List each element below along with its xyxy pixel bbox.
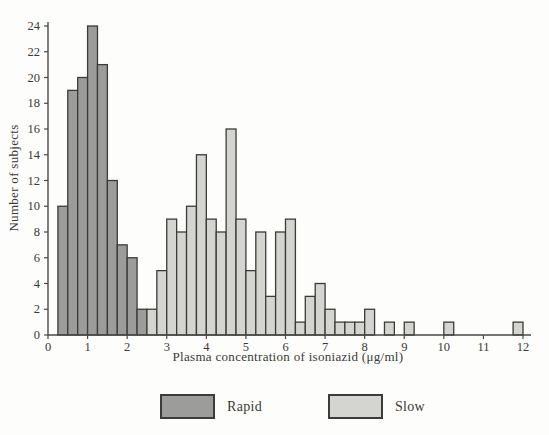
y-tick-label: 18 xyxy=(28,96,41,110)
bar-slow-5.25 xyxy=(256,232,266,335)
y-tick-label: 2 xyxy=(34,302,40,316)
legend-label-rapid: Rapid xyxy=(227,399,262,415)
legend: Rapid Slow xyxy=(0,392,549,428)
y-tick-label: 0 xyxy=(34,328,40,342)
y-tick-label: 10 xyxy=(28,199,41,213)
bar-rapid-1.5 xyxy=(107,181,117,336)
bar-rapid-2 xyxy=(127,258,137,335)
bar-slow-6.75 xyxy=(315,284,325,336)
legend-swatch-rapid xyxy=(160,394,215,419)
bar-slow-7 xyxy=(325,309,335,335)
bar-slow-11.75 xyxy=(513,322,523,335)
bar-rapid-0.5 xyxy=(68,90,78,335)
y-tick-label: 16 xyxy=(28,122,41,136)
bar-slow-7.5 xyxy=(345,322,355,335)
bar-rapid-1.25 xyxy=(97,65,107,335)
bar-slow-8.5 xyxy=(384,322,394,335)
bar-slow-2.5 xyxy=(147,309,157,335)
x-axis-title: Plasma concentration of isoniazid (μg/ml… xyxy=(48,349,528,365)
bar-slow-5.75 xyxy=(276,232,286,335)
isoniazid-histogram-figure: 0123456789101112024681012141618202224 Nu… xyxy=(0,0,549,435)
bar-slow-4.25 xyxy=(216,232,226,335)
y-tick-label: 14 xyxy=(28,148,41,162)
bar-slow-9 xyxy=(404,322,414,335)
bar-slow-7.25 xyxy=(335,322,345,335)
y-tick-label: 20 xyxy=(28,71,41,85)
legend-label-slow: Slow xyxy=(395,399,425,415)
y-tick-label: 24 xyxy=(28,19,41,33)
bar-slow-6.25 xyxy=(295,322,305,335)
bar-slow-3.5 xyxy=(187,206,197,335)
y-axis-title-text: Number of subjects xyxy=(6,124,22,231)
y-tick-label: 6 xyxy=(34,251,40,265)
bar-slow-4.5 xyxy=(226,129,236,335)
bar-rapid-2.25 xyxy=(137,309,147,335)
bar-slow-6 xyxy=(286,219,296,335)
bar-slow-4 xyxy=(206,219,216,335)
bar-rapid-0.75 xyxy=(78,78,88,336)
bar-slow-3.75 xyxy=(196,155,206,335)
bar-slow-4.75 xyxy=(236,219,246,335)
bar-rapid-1 xyxy=(88,26,98,335)
bar-slow-5.5 xyxy=(266,296,276,335)
legend-item-rapid: Rapid xyxy=(160,394,262,419)
bar-slow-5 xyxy=(246,271,256,335)
bar-slow-6.5 xyxy=(305,296,315,335)
y-tick-label: 12 xyxy=(28,174,41,188)
bar-slow-8 xyxy=(365,309,375,335)
bar-slow-2.75 xyxy=(157,271,167,335)
y-tick-label: 4 xyxy=(34,277,41,291)
bar-slow-3.25 xyxy=(177,232,187,335)
bar-slow-3 xyxy=(167,219,177,335)
bar-slow-7.75 xyxy=(355,322,365,335)
legend-swatch-slow xyxy=(328,394,383,419)
histogram-svg: 0123456789101112024681012141618202224 xyxy=(0,0,549,390)
bar-rapid-1.75 xyxy=(117,245,127,335)
y-tick-label: 8 xyxy=(34,225,40,239)
bar-slow-10 xyxy=(444,322,454,335)
y-tick-label: 22 xyxy=(28,45,41,59)
legend-item-slow: Slow xyxy=(328,394,425,419)
bar-rapid-0.25 xyxy=(58,206,68,335)
